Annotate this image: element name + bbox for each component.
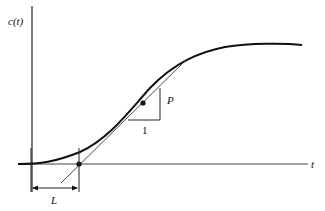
slope-run-label: 1 (142, 124, 148, 136)
slope-rise-label: P (166, 94, 174, 106)
arrowhead-left-icon (32, 186, 38, 191)
inflection-point (140, 100, 145, 105)
x-axis-label: t (311, 158, 315, 170)
delay-label: L (50, 194, 57, 206)
step-response-diagram: c(t) t 1 P L (0, 0, 325, 211)
arrowhead-right-icon (72, 186, 78, 191)
y-axis-label: c(t) (8, 15, 24, 28)
